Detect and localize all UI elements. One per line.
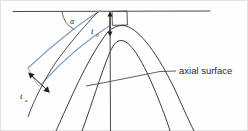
t-alpha-subscript: α <box>25 98 28 103</box>
diagram-canvas: α t 0 t α axial surface <box>0 0 248 131</box>
axial-surface-label: axial surface <box>179 65 232 76</box>
fold-thickness-figure: α t 0 t α axial surface <box>0 0 248 131</box>
enveloping-surface-line <box>13 11 210 12</box>
